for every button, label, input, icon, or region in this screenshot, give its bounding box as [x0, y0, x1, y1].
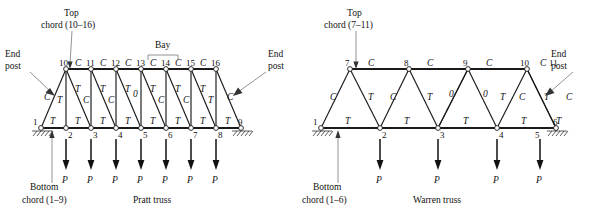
- left-node-label-4: 4: [118, 130, 123, 140]
- right-load-label-1: P: [375, 175, 382, 185]
- right-node-label-3: 3: [440, 130, 445, 140]
- right-top-force-2: C: [427, 58, 434, 68]
- left-top-chord-label-line2: chord (10–16): [41, 20, 95, 31]
- left-endpost-right-label-2: post: [268, 61, 284, 71]
- left-endpost-force-right: C: [227, 92, 234, 102]
- left-diagonal-force-3: T: [125, 84, 131, 94]
- right-node-label-10: 10: [520, 58, 530, 68]
- right-top-chord-label-1: Top: [347, 8, 362, 18]
- left-node-label-14: 14: [161, 58, 171, 68]
- left-node-label-6: 6: [168, 130, 173, 140]
- right-bottom-force-1: T: [345, 116, 351, 126]
- right-endpost-force-left: C: [330, 92, 337, 102]
- left-vertical-force-3: C: [108, 95, 115, 105]
- right-load-arrows: [377, 139, 544, 170]
- left-top-force-4: C: [150, 58, 157, 68]
- left-top-force-6: C: [200, 58, 207, 68]
- right-diagonal-10-5: [527, 69, 556, 128]
- left-vertical-force-7: T: [208, 95, 214, 105]
- right-diag-force-5: 0: [449, 89, 454, 99]
- left-bay-label: Bay: [155, 40, 171, 50]
- left-endpost-left-label-2: post: [5, 61, 21, 71]
- left-load-label-3: P: [111, 175, 118, 185]
- right-node-label-5: 5: [535, 130, 540, 140]
- left-top-chord-label-line1: Top: [64, 8, 79, 18]
- left-bottom-chord-label-2: chord (1–9): [22, 195, 67, 206]
- left-load-label-7: P: [211, 175, 218, 185]
- right-diag-force-2: T: [368, 92, 374, 102]
- left-support-pin: [32, 131, 53, 136]
- left-load-label-6: P: [186, 175, 193, 185]
- left-endpost-left-label-1: End: [5, 49, 21, 59]
- left-node-label-16: 16: [211, 58, 221, 68]
- left-diagonal-force-5: T: [175, 84, 181, 94]
- left-top-force-3: C: [125, 58, 132, 68]
- left-node-label-15: 15: [186, 58, 196, 68]
- left-bottom-force-7: T: [200, 116, 206, 126]
- left-load-label-2: P: [86, 175, 93, 185]
- left-endpost-right-label-1: End: [268, 49, 284, 59]
- left-bottom-force-6: T: [175, 116, 181, 126]
- left-node-label-2: 2: [68, 130, 73, 140]
- left-node-label-7: 7: [193, 130, 198, 140]
- left-load-label-4: P: [136, 175, 143, 185]
- right-bottom-chord-leader-arrow: [335, 130, 340, 138]
- left-vertical-force-1: T: [57, 95, 63, 105]
- right-load-label-2: P: [433, 175, 440, 185]
- right-load-label-3: P: [492, 175, 499, 185]
- left-load-arrows: [63, 139, 220, 170]
- right-bottom-chord-label-2: chord (1–6): [302, 195, 347, 206]
- left-diagonal-force-4: T: [150, 84, 156, 94]
- left-top-force-1: C: [75, 58, 82, 68]
- left-vertical-force-6: C: [183, 95, 190, 105]
- right-node-label-2: 2: [382, 130, 387, 140]
- left-joint-1: [39, 126, 44, 131]
- right-diag-force-8: C: [519, 92, 526, 102]
- right-diag-force-7: T: [500, 92, 506, 102]
- right-node-label-7: 7: [345, 58, 350, 68]
- left-diagonal-force-6: T: [200, 84, 206, 94]
- right-node-label-8: 8: [404, 58, 409, 68]
- right-top-chord-label-2: chord (7–11): [324, 20, 373, 31]
- left-support-roller: [232, 131, 253, 136]
- right-top-force-4: C: [540, 58, 547, 68]
- left-endpost-right-leader-arrow: [233, 88, 243, 97]
- right-bottom-force-3: T: [463, 116, 469, 126]
- right-truss-warren: 1 2 3 4 5 6 7 8 9 10 11 C C C C T T T T …: [302, 8, 573, 206]
- left-node-label-10: 10: [59, 58, 69, 68]
- right-node-label-4: 4: [499, 130, 504, 140]
- right-top-force-3: C: [486, 58, 493, 68]
- right-truss-caption: Warren truss: [413, 195, 461, 205]
- left-vertical-force-5: C: [158, 95, 165, 105]
- right-endpost-force-right: C: [566, 92, 573, 102]
- right-support-roller: [547, 131, 568, 136]
- truss-diagram-svg: 1 2 3 4 5 6 7 8 9 10 11 12 13 14 15 16 C…: [0, 0, 589, 215]
- left-vertical-force-4: 0: [133, 89, 138, 99]
- left-truss-pratt: 1 2 3 4 5 6 7 8 9 10 11 12 13 14 15 16 C…: [5, 8, 284, 206]
- left-bottom-force-2: T: [75, 116, 81, 126]
- right-diagonal-7-2: [350, 69, 380, 128]
- right-support-pin: [312, 131, 333, 136]
- left-endpost-right-leader: [238, 72, 266, 92]
- right-diagonal-8-3: [409, 69, 438, 128]
- right-diag-force-3: C: [390, 92, 397, 102]
- right-endpost-leader: [550, 72, 573, 92]
- left-node-label-13: 13: [136, 58, 146, 68]
- right-top-chord-leader-arrow: [353, 62, 358, 70]
- left-top-force-5: C: [175, 58, 182, 68]
- left-bottom-chord-label-1: Bottom: [30, 182, 59, 192]
- left-bottom-force-8: T: [225, 116, 231, 126]
- left-top-chord-leader: [70, 31, 72, 64]
- right-load-label-4: P: [535, 175, 542, 185]
- left-diagonal-force-2: T: [100, 84, 106, 94]
- left-bottom-force-5: T: [150, 116, 156, 126]
- left-load-label-5: P: [161, 175, 168, 185]
- left-node-label-3: 3: [93, 130, 98, 140]
- right-diag-force-6: 0: [483, 89, 488, 99]
- left-node-label-11: 11: [86, 58, 95, 68]
- figure-canvas: 1 2 3 4 5 6 7 8 9 10 11 12 13 14 15 16 C…: [0, 0, 589, 215]
- right-bottom-chord-label-1: Bottom: [313, 182, 342, 192]
- left-node-label-12: 12: [111, 58, 120, 68]
- right-node-label-1: 1: [313, 117, 318, 127]
- left-load-label-1: P: [61, 175, 68, 185]
